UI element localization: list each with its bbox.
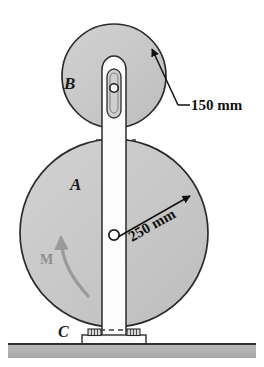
ground-group xyxy=(8,344,256,358)
pin-b xyxy=(110,84,118,92)
base-plate xyxy=(82,335,146,344)
moment-label: M xyxy=(40,252,53,267)
label-disk-a: A xyxy=(69,175,81,194)
pin-a xyxy=(109,230,119,240)
slotted-bar-group xyxy=(102,56,126,338)
label-support-c: C xyxy=(58,323,69,340)
mechanics-figure: 150 mm 250 mm M B A C xyxy=(0,0,264,367)
ground-band xyxy=(8,344,256,358)
figure-container: 150 mm 250 mm M B A C xyxy=(0,0,264,367)
label-disk-b: B xyxy=(63,74,75,93)
bar-slot xyxy=(107,69,121,118)
dimension-150mm-label: 150 mm xyxy=(191,97,243,113)
